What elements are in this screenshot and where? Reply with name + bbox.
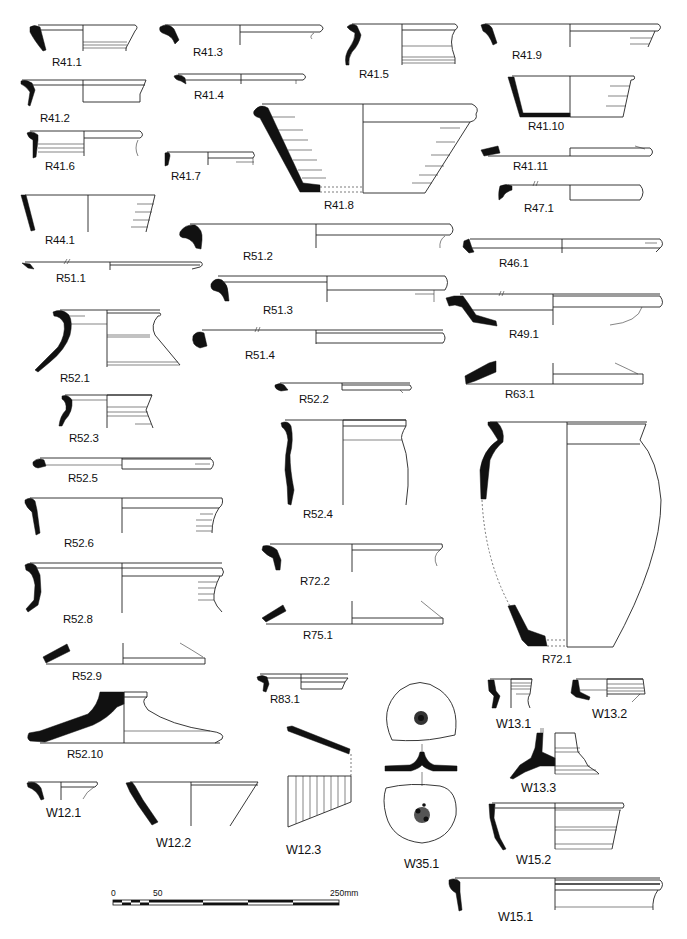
vessel-drawing-r41-4 — [174, 74, 306, 84]
vessel-drawing-r46-1 — [463, 239, 663, 253]
vessel-drawing-r75-1 — [262, 601, 443, 624]
vessel-drawing-r41-1 — [30, 25, 137, 51]
vessel-drawing-r41-11 — [481, 146, 653, 156]
vessel-drawing-r72-1 — [480, 422, 661, 647]
vessel-label: R46.1 — [499, 257, 529, 269]
vessel-drawing-w13-3 — [510, 728, 599, 779]
vessel-label: R41.3 — [193, 46, 223, 58]
drawings-canvas — [0, 0, 687, 939]
vessel-label: R41.5 — [359, 68, 389, 80]
vessel-drawing-w15-2 — [489, 803, 624, 850]
vessel-drawing-w12-3 — [287, 726, 351, 827]
vessel-label: W12.1 — [46, 806, 81, 820]
vessel-label: R51.4 — [245, 349, 275, 361]
vessel-label: R52.5 — [68, 472, 98, 484]
vessel-label: R52.2 — [299, 393, 329, 405]
vessel-label: R41.9 — [512, 49, 542, 61]
vessel-label: R41.1 — [52, 56, 82, 68]
vessel-label: W35.1 — [404, 857, 439, 871]
vessel-label: R52.6 — [64, 537, 94, 549]
vessel-label: R83.1 — [270, 693, 300, 705]
vessel-drawing-r52-5 — [33, 458, 214, 469]
vessel-drawing-w13-2 — [571, 679, 645, 702]
vessel-drawing-r63-1 — [465, 361, 643, 384]
pottery-plate: R41.1 R41.2 R41.3 R41.4 R41.5 R41.6 R41.… — [0, 0, 687, 939]
vessel-drawing-w12-2 — [126, 782, 258, 826]
vessel-drawing-r52-2 — [275, 383, 412, 393]
vessel-drawing-r52-9 — [43, 643, 205, 664]
vessel-drawing-r41-9 — [481, 24, 661, 47]
vessel-label: W13.1 — [496, 717, 531, 731]
vessel-drawing-r47-1 — [499, 181, 643, 200]
vessel-drawing-r52-1 — [35, 310, 180, 372]
vessel-label: R49.1 — [509, 328, 539, 340]
vessel-label: R75.1 — [303, 629, 333, 641]
vessel-drawing-r51-4 — [193, 327, 445, 348]
vessel-drawing-r41-2 — [21, 80, 146, 106]
vessel-drawing-r83-1 — [257, 674, 348, 692]
vessel-label: R41.7 — [171, 170, 201, 182]
vessel-label: W12.2 — [156, 836, 191, 850]
vessel-label: R52.10 — [67, 748, 103, 760]
vessel-drawing-r41-6 — [27, 131, 143, 158]
vessel-label: R52.8 — [63, 613, 93, 625]
vessel-drawing-w13-1 — [488, 679, 532, 708]
scale-label-start: 0 — [111, 888, 116, 898]
vessel-drawing-r41-10 — [508, 76, 635, 117]
vessel-drawing-r52-10 — [28, 692, 223, 743]
vessel-label: R52.4 — [303, 508, 333, 520]
scale-bar — [113, 900, 339, 905]
vessel-label: W13.3 — [521, 781, 556, 795]
vessel-label: R72.1 — [542, 653, 572, 665]
vessel-drawing-w12-1 — [27, 782, 98, 800]
vessel-drawing-r72-2 — [262, 544, 443, 572]
vessel-label: R72.2 — [300, 575, 330, 587]
vessel-drawing-r52-3 — [59, 395, 153, 428]
vessel-label: R51.3 — [263, 304, 293, 316]
vessel-drawing-r41-5 — [346, 24, 458, 65]
vessel-label: R52.9 — [72, 670, 102, 682]
vessel-drawing-r41-3 — [160, 25, 323, 45]
vessel-label: R63.1 — [505, 388, 535, 400]
scale-label-end: 250mm — [330, 888, 358, 898]
vessel-label: R44.1 — [45, 234, 75, 246]
vessel-label: W15.1 — [498, 910, 533, 924]
vessel-drawing-r52-6 — [25, 498, 223, 535]
vessel-label: W13.2 — [592, 707, 627, 721]
vessel-drawing-r44-1 — [21, 195, 155, 232]
vessel-label: R47.1 — [524, 202, 554, 214]
vessel-drawing-r52-8 — [25, 563, 224, 613]
vessel-label: R41.10 — [528, 120, 564, 132]
vessel-label: R41.6 — [45, 160, 75, 172]
vessel-label: R52.1 — [60, 372, 90, 384]
scale-label-mid: 50 — [153, 888, 162, 898]
vessel-drawing-r41-7 — [165, 152, 255, 166]
vessel-label: R51.2 — [243, 250, 273, 262]
vessel-label: W12.3 — [286, 843, 321, 857]
vessel-drawing-w15-1 — [449, 878, 663, 911]
vessel-drawing-r51-3 — [211, 276, 448, 302]
vessel-label: R41.8 — [324, 199, 354, 211]
vessel-drawing-w35-1 — [384, 683, 457, 844]
vessel-label: R41.4 — [194, 89, 224, 101]
vessel-label: R52.3 — [69, 432, 99, 444]
vessel-label: R51.1 — [56, 272, 86, 284]
vessel-drawing-r51-2 — [180, 224, 453, 249]
vessel-drawing-r51-1 — [22, 259, 202, 270]
vessel-label: W15.2 — [516, 853, 551, 867]
vessel-label: R41.11 — [513, 160, 548, 172]
vessel-drawing-r41-8 — [254, 104, 478, 193]
vessel-drawing-r52-4 — [281, 420, 408, 505]
vessel-label: R41.2 — [40, 112, 70, 124]
vessel-drawing-r49-1 — [446, 291, 663, 326]
